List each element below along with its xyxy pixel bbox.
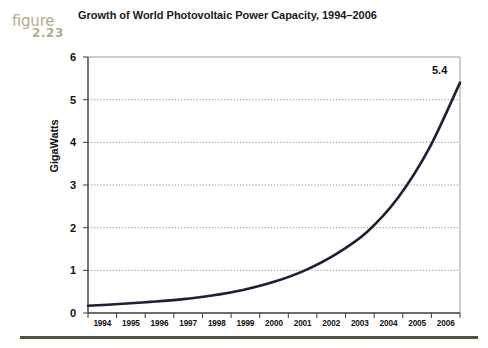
x-tick-label-2006: 2006 — [429, 320, 463, 328]
y-tick-label-0: 0 — [58, 308, 76, 319]
y-tick-label-5: 5 — [58, 95, 76, 106]
chart-plot-area: GigaWatts 0 1 2 3 4 5 6 1994 1995 1996 1… — [0, 0, 488, 348]
y-tick-label-4: 4 — [58, 137, 76, 148]
x-tick-marks — [88, 313, 460, 318]
y-tick-label-6: 6 — [58, 52, 76, 63]
bottom-divider-rule — [20, 336, 478, 339]
y-tick-label-3: 3 — [58, 180, 76, 191]
endpoint-value-label: 5.4 — [432, 64, 447, 76]
y-tick-label-2: 2 — [58, 223, 76, 234]
y-tick-marks — [83, 57, 88, 313]
y-tick-label-1: 1 — [58, 265, 76, 276]
